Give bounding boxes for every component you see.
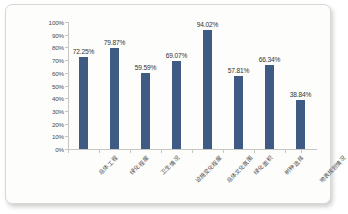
bar-value-label: 79.87%: [104, 39, 125, 46]
y-axis-tick: [65, 86, 68, 87]
y-axis-tick-label: 60%: [52, 69, 64, 76]
y-axis-tick: [65, 136, 68, 137]
x-axis-tick: [192, 150, 193, 153]
x-axis-category-label: 总体文化氛围: [224, 154, 255, 185]
y-axis-tick: [65, 73, 68, 74]
x-axis-category-label: 卫生情况: [158, 154, 180, 176]
y-axis-tick: [65, 111, 68, 112]
bar-value-label: 38.84%: [290, 91, 311, 98]
x-axis-category-label: 绿化程度: [127, 154, 149, 176]
y-axis-tick: [65, 98, 68, 99]
x-axis-category-label: 地表规划情况: [317, 154, 348, 185]
x-axis-category-label: 树种选择: [282, 154, 304, 176]
bar-value-label: 66.34%: [259, 56, 280, 63]
y-axis-tick-label: 80%: [52, 44, 64, 51]
x-axis-tick: [254, 150, 255, 153]
y-axis-tick-label: 70%: [52, 57, 64, 64]
y-axis-tick-label: 30%: [52, 107, 64, 114]
y-axis-tick-label: 90%: [52, 31, 64, 38]
x-axis-tick: [285, 150, 286, 153]
x-axis-category-label: 总体工程: [96, 154, 118, 176]
bar-value-label: 59.59%: [135, 64, 156, 71]
chart-card: 0%10%20%30%40%50%60%70%80%90%100%72.25%7…: [5, 4, 331, 204]
x-axis-category-label: 设施变化程度: [193, 154, 224, 185]
y-axis-tick: [65, 22, 68, 23]
bar: [79, 57, 88, 149]
y-axis-tick-label: 50%: [52, 82, 64, 89]
bar-value-label: 72.25%: [73, 48, 94, 55]
x-axis-tick: [301, 150, 302, 153]
bar: [141, 73, 150, 149]
bar: [172, 61, 181, 149]
plot-area: 0%10%20%30%40%50%60%70%80%90%100%72.25%7…: [68, 22, 316, 149]
x-axis-category-label: 绿化面积: [251, 154, 273, 176]
y-axis-tick: [65, 60, 68, 61]
bar: [296, 100, 305, 149]
y-axis-tick: [65, 124, 68, 125]
bar-value-label: 57.81%: [228, 67, 249, 74]
x-axis-tick: [223, 150, 224, 153]
y-axis-tick-label: 100%: [49, 19, 64, 26]
x-axis-tick: [161, 150, 162, 153]
x-axis-tick: [130, 150, 131, 153]
bar: [234, 76, 243, 149]
bar: [203, 30, 212, 149]
y-axis-tick-label: 0%: [55, 146, 64, 153]
y-axis-tick: [65, 47, 68, 48]
x-axis-tick: [99, 150, 100, 153]
y-axis-tick-label: 20%: [52, 120, 64, 127]
bar-value-label: 69.07%: [166, 52, 187, 59]
bar: [265, 65, 274, 149]
y-axis-tick: [65, 35, 68, 36]
y-axis-tick-label: 10%: [52, 133, 64, 140]
bar: [110, 48, 119, 149]
bar-chart: 0%10%20%30%40%50%60%70%80%90%100%72.25%7…: [6, 5, 332, 205]
bar-value-label: 94.02%: [197, 21, 218, 28]
x-axis-tick: [68, 150, 69, 153]
y-axis-tick-label: 40%: [52, 95, 64, 102]
